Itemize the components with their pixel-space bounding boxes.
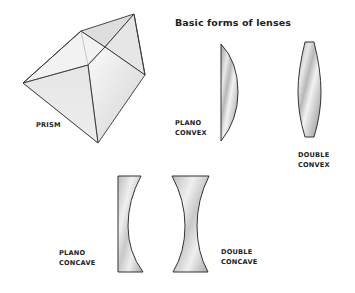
prism-label: PRISM [36,120,61,130]
double-concave-label: DOUBLE CONCAVE [221,247,257,267]
label-line: DOUBLE [221,247,257,257]
plano-convex-lens [221,44,238,141]
lens-diagram: Basic forms of lenses PRISM PLANO CONVEX… [0,0,355,293]
plano-concave-lens [118,176,143,272]
plano-concave-label: PLANO CONCAVE [59,248,95,268]
plano-convex-label: PLANO CONVEX [175,118,207,138]
label-line: PRISM [36,120,61,130]
label-line: PLANO [175,118,207,128]
diagram-title: Basic forms of lenses [175,17,291,28]
label-line: CONCAVE [221,257,257,267]
double-concave-lens [172,176,209,272]
label-line: PLANO [59,248,95,258]
double-convex-lens [298,42,321,137]
label-line: CONCAVE [59,258,95,268]
double-convex-label: DOUBLE CONVEX [298,150,330,170]
label-line: CONVEX [298,160,330,170]
label-line: DOUBLE [298,150,330,160]
lens-illustrations [0,0,355,293]
label-line: CONVEX [175,128,207,138]
